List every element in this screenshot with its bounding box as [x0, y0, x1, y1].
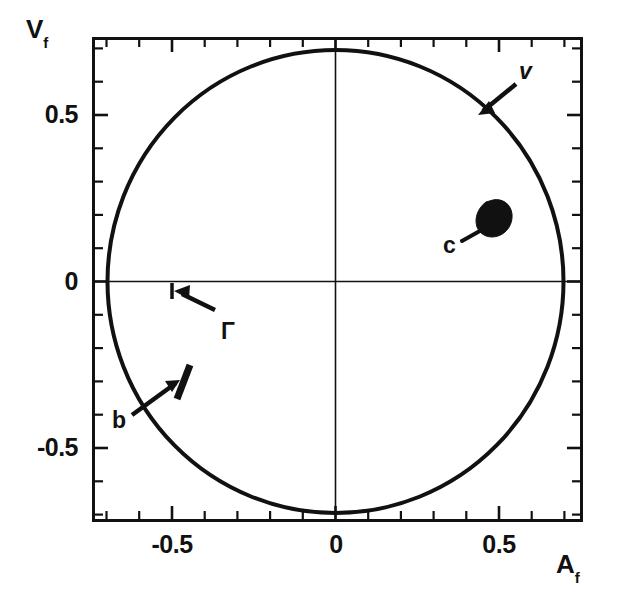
x-tick-label-0.5: 0.5 [449, 530, 549, 559]
gamma-annotation-label: Γ [221, 318, 235, 345]
y-axis-title-subscript: f [43, 34, 48, 51]
y-axis-title: Vf [26, 14, 48, 47]
y-tick-label--0.5: -0.5 [0, 433, 78, 462]
x-axis-title-subscript: f [575, 569, 580, 586]
charm-annotation-label: c [443, 232, 456, 259]
y-tick-label-0.5: 0.5 [8, 100, 78, 129]
x-tick-label--0.5: -0.5 [122, 530, 222, 559]
x-tick-label-0: 0 [286, 530, 386, 559]
y-tick-label-0: 0 [8, 267, 78, 296]
x-axis-title-base: A [556, 549, 575, 579]
plot-frame [92, 37, 583, 522]
figure-root: 0.5 0 -0.5 -0.5 0 0.5 Vf Af v c Γ b [0, 0, 617, 603]
x-axis-title: Af [556, 549, 580, 582]
beauty-annotation-label: b [112, 407, 126, 434]
y-axis-title-base: V [26, 14, 43, 44]
nu-annotation-label: v [519, 58, 532, 85]
